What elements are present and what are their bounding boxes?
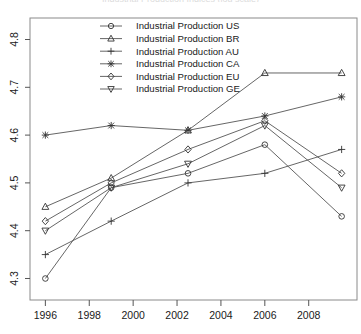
series-line [45, 126, 341, 231]
legend-label-br: Industrial Production BR [136, 33, 240, 44]
x-tick-label: 2000 [121, 309, 145, 321]
y-tick-label: 4.4 [8, 223, 20, 238]
series-line [45, 145, 341, 279]
series-ca [42, 93, 345, 138]
y-tick-label: 4.8 [8, 32, 20, 47]
x-tick-label: 2002 [165, 309, 189, 321]
series-au [42, 146, 345, 258]
legend-label-au: Industrial Production AU [136, 46, 239, 57]
legend-label-eu: Industrial Production EU [136, 71, 240, 82]
x-tick-label: 1998 [78, 309, 102, 321]
data-series-group [42, 69, 345, 281]
x-axis-ticks: 1996199820002002200420062008 [34, 300, 321, 321]
series-marker [338, 185, 345, 191]
y-axis-ticks: 4.34.44.54.64.74.8 [8, 32, 30, 286]
legend-label-ge: Industrial Production GE [136, 83, 240, 94]
y-tick-label: 4.3 [8, 271, 20, 286]
y-tick-label: 4.7 [8, 80, 20, 95]
series-marker [261, 69, 268, 75]
chart-legend: Industrial Production USIndustrial Produ… [100, 20, 240, 94]
series-marker [42, 228, 49, 234]
legend-label-us: Industrial Production US [136, 20, 239, 31]
chart-figure: Industrial Production Indices (log scale… [0, 0, 361, 334]
y-tick-label: 4.5 [8, 175, 20, 190]
series-ge [42, 123, 345, 234]
legend-marker-ge [108, 87, 114, 93]
line-chart-plot: 4.34.44.54.64.74.8 199619982000200220042… [0, 0, 361, 334]
x-tick-label: 1996 [34, 309, 58, 321]
legend-marker-br [108, 35, 114, 41]
x-tick-label: 2008 [297, 309, 321, 321]
x-tick-label: 2004 [209, 309, 233, 321]
series-marker [42, 203, 49, 209]
series-line [45, 97, 341, 135]
legend-label-ca: Industrial Production CA [136, 58, 240, 69]
x-tick-label: 2006 [253, 309, 277, 321]
y-tick-label: 4.6 [8, 128, 20, 143]
series-marker [338, 69, 345, 75]
